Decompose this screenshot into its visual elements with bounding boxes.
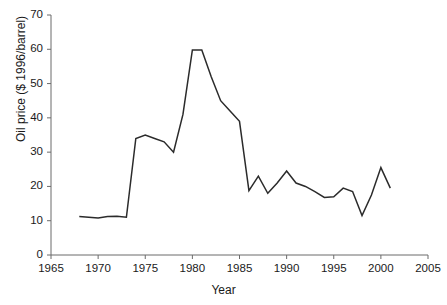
axes (51, 15, 428, 255)
x-tick-label: 1975 (125, 263, 165, 275)
y-tick-label: 10 (17, 215, 43, 227)
x-axis-title: Year (0, 283, 447, 297)
x-tick-label: 2000 (361, 263, 401, 275)
data-series-group (79, 50, 390, 218)
y-tick-label: 30 (17, 146, 43, 158)
y-axis-title: Oil price ($ 1996/barrel) (14, 16, 28, 142)
x-tick-label: 1965 (31, 263, 71, 275)
x-tick-label: 1985 (220, 263, 260, 275)
x-tick-label: 1995 (314, 263, 354, 275)
x-tick-label: 1970 (78, 263, 118, 275)
x-tick-label: 2005 (408, 263, 447, 275)
y-tick-label: 20 (17, 180, 43, 192)
x-tick-label: 1980 (172, 263, 212, 275)
oil-price-chart: 010203040506070 196519701975198019851990… (0, 0, 447, 305)
chart-canvas (0, 0, 447, 305)
data-line-oil-price (79, 50, 390, 218)
x-axis-ticks (51, 255, 428, 259)
y-tick-label: 0 (17, 249, 43, 261)
y-axis-ticks (47, 15, 51, 255)
x-tick-label: 1990 (267, 263, 307, 275)
